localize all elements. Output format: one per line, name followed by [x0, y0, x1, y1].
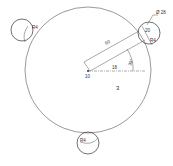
hole-bottom[interactable]: R4 [77, 132, 99, 154]
center-point[interactable] [87, 70, 89, 72]
region-label: 3 [116, 85, 120, 91]
center-label: 10 [85, 74, 91, 79]
angle-label: 30° [127, 58, 134, 66]
hole-radius-label: R4 [150, 38, 156, 43]
hole-top-right[interactable]: Ø 28 20 R4 [138, 10, 166, 45]
dimension-horizontal[interactable]: 18 [88, 65, 146, 71]
hole-inner-label: 20 [145, 28, 151, 33]
sketch-canvas: R4 Ø 28 20 R4 R4 60 18 30° 10 3 [0, 0, 173, 166]
hole-radius-label: R4 [80, 138, 86, 143]
radial-dimension-label: 60 [104, 39, 111, 46]
hole-radius-label: R4 [32, 25, 38, 30]
dimension-angle[interactable]: 30° [127, 49, 134, 71]
hole-top-left[interactable]: R4 [11, 19, 38, 42]
diameter-label: Ø 28 [156, 10, 166, 15]
horizontal-dimension-label: 18 [112, 65, 118, 70]
